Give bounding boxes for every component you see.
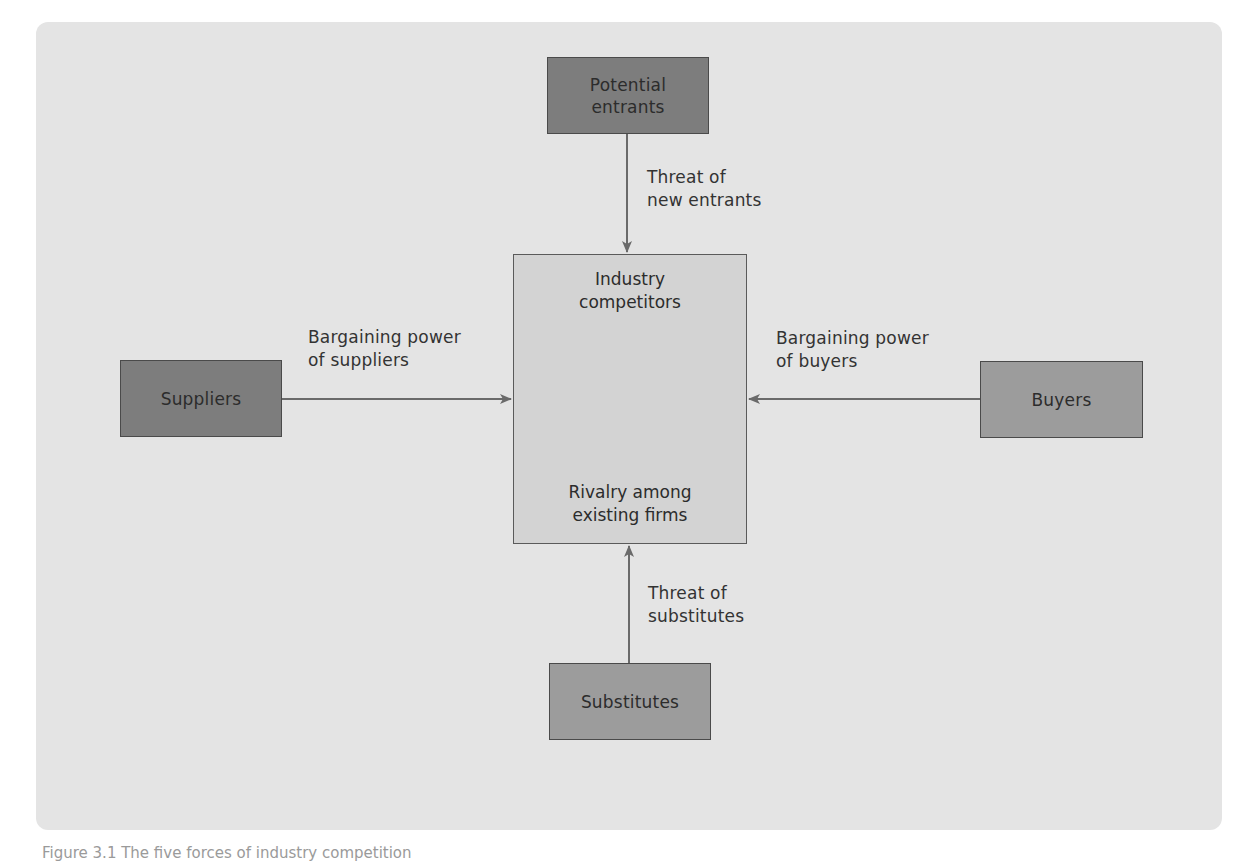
substitutes-label: Substitutes (581, 691, 679, 713)
threat-substitutes-label: Threat of substitutes (648, 582, 744, 628)
industry-competitors-title: Industry competitors (514, 268, 746, 314)
substitutes-box: Substitutes (549, 663, 711, 740)
potential-entrants-box: Potential entrants (547, 57, 709, 134)
threat-new-entrants-label: Threat of new entrants (647, 166, 762, 212)
bargaining-suppliers-label: Bargaining power of suppliers (308, 326, 461, 372)
bargaining-buyers-label: Bargaining power of buyers (776, 327, 929, 373)
industry-competitors-box: Industry competitors Rivalry among exist… (513, 254, 747, 544)
suppliers-label: Suppliers (161, 388, 242, 410)
buyers-box: Buyers (980, 361, 1143, 438)
potential-entrants-label: Potential entrants (590, 74, 666, 118)
rivalry-label: Rivalry among existing firms (514, 481, 746, 527)
figure-caption: Figure 3.1 The five forces of industry c… (42, 844, 412, 862)
suppliers-box: Suppliers (120, 360, 282, 437)
buyers-label: Buyers (1031, 389, 1091, 411)
